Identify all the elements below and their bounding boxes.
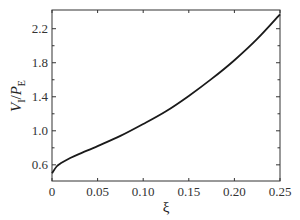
y-tick-label: 0.6 (32, 157, 49, 172)
data-line (52, 14, 280, 173)
x-tick-label: 0.10 (132, 184, 155, 199)
y-tick-labels: 0.61.01.41.82.2 (32, 21, 49, 172)
y-tick-label: 1.8 (32, 55, 48, 70)
y-label-p-sub: E (16, 80, 27, 86)
x-tick-labels: 00.050.100.150.200.25 (49, 184, 292, 199)
x-tick-label: 0.15 (177, 184, 200, 199)
y-axis-label: VI/PE (8, 80, 27, 112)
x-tick-label: 0.20 (223, 184, 246, 199)
y-label-p: P (8, 86, 24, 96)
axis-ticks (52, 10, 280, 181)
line-chart: 00.050.100.150.200.25 0.61.01.41.82.2 ξ … (0, 0, 300, 220)
x-axis-label: ξ (163, 199, 170, 215)
y-tick-label: 1.0 (32, 123, 48, 138)
x-tick-label: 0.25 (269, 184, 292, 199)
plot-frame (52, 10, 280, 181)
x-tick-label: 0.05 (86, 184, 109, 199)
y-tick-label: 2.2 (32, 21, 48, 36)
x-tick-label: 0 (49, 184, 56, 199)
y-tick-label: 1.4 (32, 89, 49, 104)
axes-box (52, 10, 280, 181)
